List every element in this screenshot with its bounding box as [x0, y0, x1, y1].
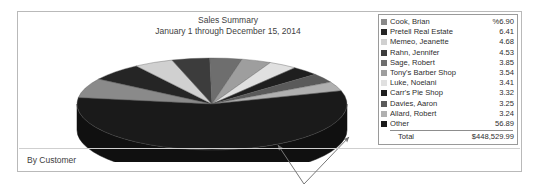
legend-item-value: 3.85 [495, 58, 514, 68]
legend-item-value: %6.90 [488, 17, 514, 27]
legend-item-value: 3.24 [495, 109, 514, 119]
legend-item: Allard, Robert3.24 [381, 109, 514, 119]
legend-item-value: 3.54 [495, 68, 514, 78]
legend-swatch-icon [381, 121, 387, 127]
legend-item: Luke, Noelani3.41 [381, 78, 514, 88]
legend-item: Carr's Pie Shop3.32 [381, 88, 514, 98]
legend-swatch-icon [381, 111, 387, 117]
legend-total-value: $448,529.99 [468, 131, 514, 142]
chart-title: Sales Summary January 1 through December… [78, 15, 378, 37]
legend-item: Pretell Real Estate6.41 [381, 27, 514, 37]
legend-item-label: Tony's Barber Shop [390, 68, 495, 78]
legend-item-value: 4.68 [495, 37, 514, 47]
legend-total-label: Total [390, 131, 468, 142]
legend-item: Tony's Barber Shop3.54 [381, 68, 514, 78]
chart-title-line1: Sales Summary [78, 15, 378, 26]
legend-swatch-icon [381, 19, 387, 25]
footer-divider [19, 148, 520, 149]
legend-total-row: Total $448,529.99 [381, 131, 514, 142]
footer-label: By Customer [27, 154, 76, 166]
legend-item: Other56.89 [381, 119, 514, 129]
report-screenshot: Sales Summary January 1 through December… [0, 0, 537, 185]
chart-title-line2: January 1 through December 15, 2014 [78, 26, 378, 37]
legend-item-label: Pretell Real Estate [390, 27, 495, 37]
legend-item: Cook, Brian%6.90 [381, 17, 514, 27]
legend-item-label: Sage, Robert [390, 58, 495, 68]
legend-swatch-icon [381, 39, 387, 45]
legend-item-label: Other [390, 119, 491, 129]
legend-item-label: Memeo, Jeanette [390, 37, 495, 47]
legend-swatch-icon [381, 90, 387, 96]
legend-swatch-icon [381, 50, 387, 56]
legend-swatch-icon [381, 80, 387, 86]
legend-item: Memeo, Jeanette4.68 [381, 37, 514, 47]
legend-item-value: 56.89 [491, 119, 514, 129]
report-frame: Sales Summary January 1 through December… [17, 11, 522, 172]
legend-item-value: 6.41 [495, 27, 514, 37]
legend-item: Rahn, Jennifer4.53 [381, 48, 514, 58]
legend-item-label: Davies, Aaron [390, 99, 495, 109]
pie-chart [42, 42, 382, 162]
pie-top-faces [77, 58, 347, 150]
legend-swatch-icon [381, 101, 387, 107]
legend-item-value: 3.41 [495, 78, 514, 88]
legend-item-value: 3.25 [495, 99, 514, 109]
legend-item-value: 3.32 [495, 88, 514, 98]
legend-item-label: Rahn, Jennifer [390, 48, 495, 58]
legend-item: Sage, Robert3.85 [381, 58, 514, 68]
legend-swatch-icon [381, 60, 387, 66]
legend-swatch-icon [381, 29, 387, 35]
pie-chart-svg [42, 42, 382, 162]
legend-item: Davies, Aaron3.25 [381, 99, 514, 109]
legend-list: Cook, Brian%6.90Pretell Real Estate6.41M… [381, 17, 514, 129]
legend-item-label: Cook, Brian [390, 17, 488, 27]
legend-item-value: 4.53 [495, 48, 514, 58]
legend-swatch-icon [381, 70, 387, 76]
legend-item-label: Allard, Robert [390, 109, 495, 119]
legend-item-label: Luke, Noelani [390, 78, 495, 88]
legend: Cook, Brian%6.90Pretell Real Estate6.41M… [378, 14, 518, 145]
legend-item-label: Carr's Pie Shop [390, 88, 495, 98]
